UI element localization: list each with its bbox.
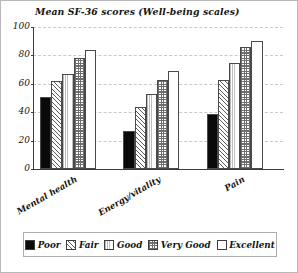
bar-pain-fair [218,80,229,169]
y-tick-label-20: 20 [19,135,30,145]
y-tick-label-60: 60 [19,78,30,88]
y-tick-mark-0 [31,169,34,170]
chart-figure: Mean SF-36 scores (Well-being scales) 02… [0,0,298,273]
bar-mental-health-excellent [85,50,96,169]
legend-label-very-good: Very Good [161,240,211,250]
y-tick-mark-60 [31,84,34,85]
bar-energy-vitality-very-good [157,80,168,169]
legend-item-very-good: Very Good [148,240,210,250]
bar-mental-health-poor [40,97,51,169]
x-tick-label-energy-vitality: Energy/vitality [97,174,163,218]
legend-label-fair: Fair [79,240,98,250]
legend-swatch-very-good [148,240,158,250]
legend-item-excellent: Excellent [217,240,275,250]
legend-label-excellent: Excellent [229,240,275,250]
legend-swatch-excellent [217,240,227,250]
y-tick-label-100: 100 [13,21,30,31]
plot-area [33,27,283,169]
bar-pain-good [229,63,240,170]
y-axis-line [33,27,34,170]
legend-swatch-poor [25,240,35,250]
y-tick-mark-80 [31,55,34,56]
bar-pain-very-good [240,47,251,169]
legend-item-poor: Poor [25,240,60,250]
x-axis-line [33,169,284,170]
bar-pain-poor [207,114,218,169]
legend-swatch-fair [66,240,76,250]
legend-label-good: Good [117,240,142,250]
chart-title: Mean SF-36 scores (Well-being scales) [35,6,240,17]
bar-energy-vitality-good [146,94,157,169]
bar-mental-health-fair [51,81,62,169]
y-tick-mark-100 [31,27,34,28]
legend-item-fair: Fair [66,240,98,250]
y-tick-label-80: 80 [19,49,30,59]
y-tick-mark-40 [31,112,34,113]
y-tick-label-40: 40 [19,106,30,116]
bar-energy-vitality-fair [135,107,146,169]
y-tick-mark-20 [31,141,34,142]
legend-swatch-good [104,240,114,250]
legend-item-good: Good [104,240,142,250]
y-tick-label-0: 0 [24,163,30,173]
bar-energy-vitality-poor [123,131,134,169]
x-tick-label-pain: Pain [223,174,246,193]
bar-energy-vitality-excellent [168,71,179,169]
bar-mental-health-good [62,74,73,169]
bar-pain-excellent [251,41,262,169]
legend-label-poor: Poor [38,240,61,250]
bar-mental-health-very-good [74,58,85,169]
chart-legend: PoorFairGoodVery GoodExcellent [23,232,277,257]
gridline-100 [33,27,283,28]
